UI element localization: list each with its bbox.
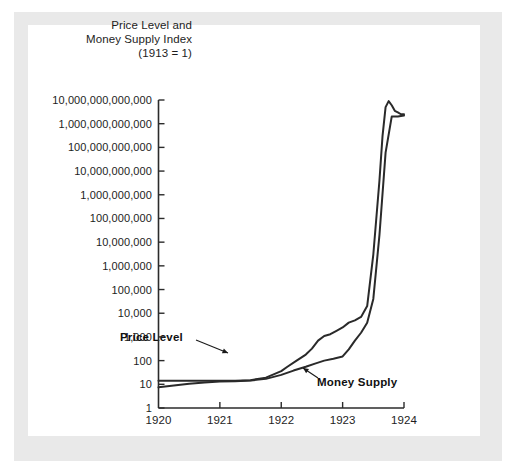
- x-axis-tick-label: 1922: [268, 414, 294, 426]
- y-axis-tick-label: 10,000,000,000,000: [52, 94, 152, 106]
- y-axis-tick-label: 100,000,000: [90, 212, 152, 224]
- y-axis-tick-label: 10,000,000,000: [74, 165, 152, 177]
- x-axis-tick-label: 1924: [391, 414, 417, 426]
- y-axis-tick-label: 1,000,000,000,000: [59, 118, 152, 130]
- x-axis-tick-label: 1923: [330, 414, 356, 426]
- y-axis-tick-labels: 10,000,000,000,0001,000,000,000,000100,0…: [0, 0, 152, 473]
- x-axis-tick-label: 1921: [207, 414, 233, 426]
- x-axis-tick-label: 1920: [146, 414, 172, 426]
- y-axis-tick-label: 10,000,000: [96, 236, 152, 248]
- y-axis-tick-label: 10: [140, 378, 152, 390]
- y-axis-tick-label: 1,000,000: [102, 260, 152, 272]
- y-axis-tick-label: 10,000: [118, 307, 152, 319]
- series-label-money-supply: Money Supply: [317, 376, 397, 388]
- y-axis-tick-label: 1,000,000,000: [80, 189, 152, 201]
- y-axis-tick-label: 100: [133, 355, 152, 367]
- y-axis-tick-label: 1: [146, 402, 152, 414]
- y-axis-tick-label: 100,000: [112, 284, 152, 296]
- figure-root: Price Level and Money Supply Index (1913…: [0, 0, 518, 473]
- series-label-price-level: Price Level: [120, 331, 183, 343]
- y-axis-tick-label: 100,000,000,000: [68, 141, 152, 153]
